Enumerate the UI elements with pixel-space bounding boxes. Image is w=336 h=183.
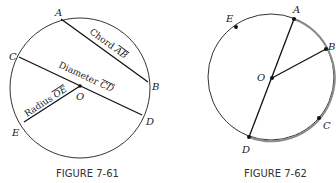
point-e (234, 25, 238, 29)
point-label-b: B (151, 81, 159, 92)
point-label-o: O (257, 72, 265, 83)
circle-7-61 (10, 18, 150, 158)
figure-7-62: A B C D E O FIGURE 7-62 (208, 4, 335, 179)
point-label-e: E (11, 127, 20, 138)
radius-ob (272, 49, 326, 78)
figure-caption: FIGURE 7-61 (56, 168, 119, 179)
geometry-figures: A B C D E O Chord AB Diameter CD Radius … (0, 0, 336, 183)
center-point-o (78, 84, 82, 88)
point-label-a: A (54, 7, 62, 18)
point-label-c: C (9, 51, 17, 62)
point-label-b: B (327, 41, 335, 52)
point-label-e: E (225, 13, 234, 24)
radius-oe-label: Radius OE (23, 84, 69, 119)
point-label-d: D (145, 116, 154, 127)
point-label-c: C (323, 120, 331, 131)
point-c (317, 116, 321, 120)
point-a (292, 17, 296, 21)
point-label-o: O (76, 91, 84, 102)
figure-7-61: A B C D E O Chord AB Diameter CD Radius … (9, 7, 159, 179)
center-point-o (270, 76, 274, 80)
point-d (247, 135, 251, 139)
figure-caption: FIGURE 7-62 (244, 168, 307, 179)
point-label-d: D (241, 144, 250, 155)
point-label-a: A (292, 4, 300, 15)
